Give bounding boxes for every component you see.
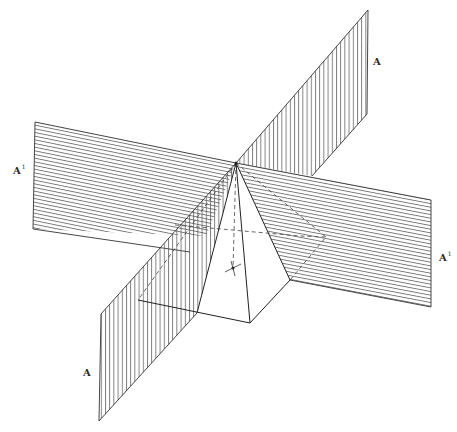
prime-mark: 1	[22, 163, 26, 170]
apex-point	[235, 162, 238, 165]
label-plane-a1-right: A1	[439, 251, 452, 263]
prime-mark: 1	[448, 250, 452, 257]
label-plane-a-bottom: A	[83, 368, 91, 378]
label-plane-a-top: A	[373, 57, 381, 67]
plane-a-upper	[236, 10, 368, 176]
pyramid-plane-diagram	[0, 0, 457, 432]
label-plane-a1-left: A1	[13, 164, 26, 176]
